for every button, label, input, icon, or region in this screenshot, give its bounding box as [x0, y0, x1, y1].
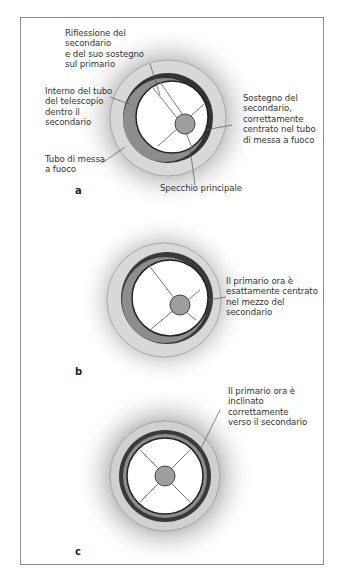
label-spider: Sostegno del secondario, correttamente c…	[243, 93, 316, 145]
secondary-mirror	[170, 295, 190, 315]
panel-letter-c: c	[75, 546, 81, 557]
secondary-mirror	[155, 466, 175, 486]
panel-letter-b: b	[75, 366, 82, 377]
primary-mirror	[136, 81, 208, 153]
label-primary-mirror: Specchio principale	[160, 183, 242, 193]
label-secondary-reflection: Riflessione del secondario e del suo sos…	[65, 28, 144, 70]
secondary-mirror	[175, 114, 195, 134]
label-primary-tilted: Il primario ora è inclinato correttament…	[228, 386, 307, 428]
label-focuser-tube: Tubo di messa a fuoco	[45, 154, 105, 175]
panel-b-eyepiece-view	[79, 215, 249, 385]
panel-letter-a: a	[75, 185, 82, 196]
primary-mirror	[132, 260, 208, 336]
label-primary-centered: Il primario ora è esattamente centrato n…	[226, 276, 318, 318]
label-tube-interior: Interno del tubo del telescopio dentro i…	[45, 86, 112, 128]
